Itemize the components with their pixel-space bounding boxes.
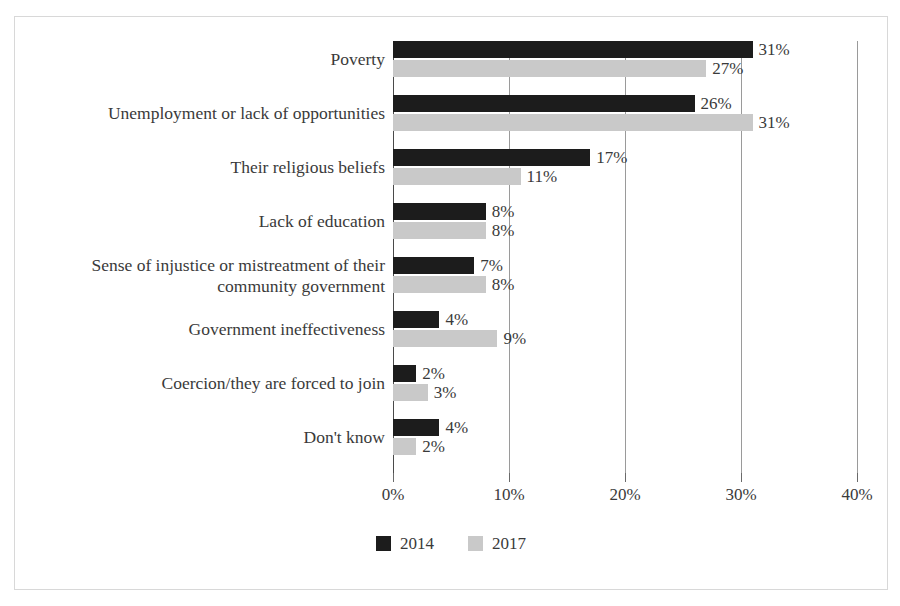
x-axis: 0%10%20%30%40%	[393, 473, 857, 513]
bar-value-label: 3%	[434, 384, 457, 401]
bar-group: 7%8%	[393, 257, 857, 297]
legend-item[interactable]: 2014	[376, 535, 434, 552]
bar-value-label: 8%	[492, 222, 515, 239]
x-tick-label: 10%	[493, 485, 524, 505]
bar-value-label: 2%	[422, 438, 445, 455]
bar-2017[interactable]	[393, 222, 486, 239]
bar-group: 17%11%	[393, 149, 857, 189]
bar-value-label: 7%	[480, 257, 503, 274]
bar-2017[interactable]	[393, 438, 416, 455]
category-label: Don't know	[25, 427, 385, 448]
bar-2014[interactable]	[393, 149, 590, 166]
x-tick-mark	[393, 473, 394, 482]
bar-value-label: 31%	[759, 114, 790, 131]
bar-value-label: 9%	[503, 330, 526, 347]
category-label: Sense of injustice or mistreatment of th…	[25, 255, 385, 297]
legend-swatch-icon	[468, 536, 483, 551]
bar-value-label: 11%	[527, 168, 558, 185]
x-tick-label: 40%	[841, 485, 872, 505]
legend-item[interactable]: 2017	[468, 535, 526, 552]
bar-2014[interactable]	[393, 257, 474, 274]
bar-value-label: 8%	[492, 276, 515, 293]
bar-value-label: 17%	[596, 149, 627, 166]
bar-2014[interactable]	[393, 41, 753, 58]
x-tick-label: 30%	[725, 485, 756, 505]
bar-group: 4%2%	[393, 419, 857, 459]
chart-legend: 20142017	[15, 535, 887, 552]
bar-2014[interactable]	[393, 95, 695, 112]
x-tick-label: 20%	[609, 485, 640, 505]
bar-value-label: 31%	[759, 41, 790, 58]
legend-label: 2014	[400, 535, 434, 552]
category-label: Unemployment or lack of opportunities	[25, 103, 385, 124]
category-axis-labels: PovertyUnemployment or lack of opportuni…	[23, 41, 385, 473]
bar-2014[interactable]	[393, 203, 486, 220]
category-label: Poverty	[25, 49, 385, 70]
bar-value-label: 26%	[701, 95, 732, 112]
x-tick-mark	[625, 473, 626, 482]
gridline-40	[857, 41, 858, 473]
category-label: Their religious beliefs	[25, 157, 385, 178]
bar-group: 26%31%	[393, 95, 857, 135]
bar-group: 31%27%	[393, 41, 857, 81]
category-label: Government ineffectiveness	[25, 319, 385, 340]
bar-2017[interactable]	[393, 168, 521, 185]
bar-2017[interactable]	[393, 330, 497, 347]
x-tick-mark	[857, 473, 858, 482]
x-tick-mark	[509, 473, 510, 482]
bar-2017[interactable]	[393, 384, 428, 401]
bar-value-label: 2%	[422, 365, 445, 382]
bar-2017[interactable]	[393, 276, 486, 293]
category-label: Lack of education	[25, 211, 385, 232]
bar-group: 4%9%	[393, 311, 857, 351]
bar-2017[interactable]	[393, 60, 706, 77]
x-tick-mark	[741, 473, 742, 482]
legend-swatch-icon	[376, 536, 391, 551]
bar-group: 2%3%	[393, 365, 857, 405]
bar-value-label: 27%	[712, 60, 743, 77]
category-label: Coercion/they are forced to join	[25, 373, 385, 394]
bar-group: 8%8%	[393, 203, 857, 243]
bar-2014[interactable]	[393, 365, 416, 382]
legend-label: 2017	[492, 535, 526, 552]
plot-area: 31%27%26%31%17%11%8%8%7%8%4%9%2%3%4%2%	[393, 41, 857, 473]
bar-value-label: 4%	[445, 311, 468, 328]
bar-value-label: 8%	[492, 203, 515, 220]
bar-2014[interactable]	[393, 419, 439, 436]
x-tick-label: 0%	[382, 485, 405, 505]
bar-2014[interactable]	[393, 311, 439, 328]
chart-frame: PovertyUnemployment or lack of opportuni…	[14, 16, 888, 590]
bar-2017[interactable]	[393, 114, 753, 131]
bar-value-label: 4%	[445, 419, 468, 436]
